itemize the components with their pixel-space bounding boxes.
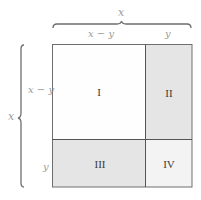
left-brace bbox=[18, 45, 24, 187]
top-total-label: x bbox=[118, 8, 124, 18]
region-IV-label: IV bbox=[163, 159, 175, 170]
column-label-y: y bbox=[165, 29, 171, 39]
region-II-label: II bbox=[165, 88, 172, 99]
row-label-y: y bbox=[43, 162, 49, 172]
top-brace bbox=[53, 21, 191, 28]
region-III-label: III bbox=[95, 159, 106, 170]
row-label-x-minus-y: x − y bbox=[28, 85, 54, 95]
region-I-label: I bbox=[97, 87, 101, 98]
column-label-x-minus-y: x − y bbox=[88, 29, 114, 39]
square-decomposition-diagram: x x − y y x x − y y I II III IV bbox=[0, 0, 201, 200]
left-total-label: x bbox=[8, 112, 14, 122]
